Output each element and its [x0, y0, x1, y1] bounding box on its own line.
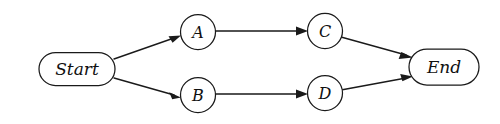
- node-start-label: Start: [55, 59, 99, 79]
- node-c[interactable]: C: [308, 14, 343, 49]
- node-d-label: D: [318, 84, 332, 103]
- edge-a-to-c: [216, 27, 308, 36]
- node-end[interactable]: End: [409, 49, 479, 85]
- node-d[interactable]: D: [308, 76, 343, 111]
- edge-d-to-end: [341, 74, 413, 90]
- edge-start-to-a-arrowhead: [169, 36, 182, 43]
- node-b-label: B: [191, 86, 204, 105]
- node-b[interactable]: B: [181, 78, 216, 113]
- edge-c-to-end-line: [341, 37, 406, 55]
- edge-start-to-b-line: [114, 78, 174, 95]
- edge-start-to-b: [114, 78, 181, 99]
- edge-start-to-b-arrowhead: [169, 92, 181, 99]
- edge-d-to-end-line: [341, 78, 406, 90]
- flowchart-canvas: Start A B C D End: [0, 0, 500, 124]
- edge-group: [114, 27, 413, 100]
- edge-start-to-a: [114, 36, 181, 60]
- flowchart-diagram: Start A B C D End: [0, 0, 500, 124]
- node-start[interactable]: Start: [39, 53, 115, 86]
- node-c-label: C: [319, 22, 331, 41]
- node-group: Start A B C D End: [39, 14, 479, 113]
- edge-c-to-end: [341, 37, 413, 59]
- node-a[interactable]: A: [181, 15, 216, 50]
- edge-b-to-d: [216, 90, 308, 99]
- edge-a-to-c-arrowhead: [296, 27, 308, 36]
- edge-start-to-a-line: [114, 38, 174, 59]
- node-end-label: End: [426, 57, 461, 77]
- edge-b-to-d-arrowhead: [296, 90, 308, 99]
- node-a-label: A: [190, 23, 204, 42]
